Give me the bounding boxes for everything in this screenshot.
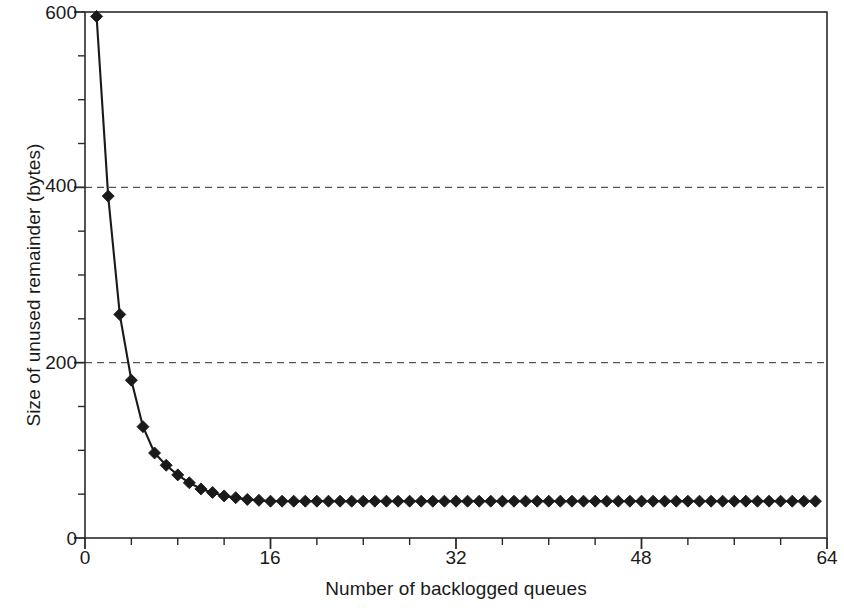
plot-area	[0, 0, 844, 608]
x-tick-label-16: 16	[240, 548, 300, 567]
x-tick-label-32: 32	[426, 548, 486, 567]
gridlines	[85, 187, 827, 362]
y-tick-label-200: 200	[7, 353, 77, 372]
x-tick-label-0: 0	[55, 548, 115, 567]
x-tick-label-48: 48	[611, 548, 671, 567]
axis-ticks	[74, 12, 827, 549]
x-tick-label-64: 64	[797, 548, 844, 567]
y-axis-title: Size of unused remainder (bytes)	[23, 105, 45, 465]
y-tick-label-400: 400	[7, 176, 77, 195]
x-axis-title: Number of backlogged queues	[85, 578, 827, 600]
chart-figure: Size of unused remainder (bytes) Number …	[0, 0, 844, 608]
y-tick-label-600: 600	[7, 3, 77, 22]
data-series	[91, 10, 822, 507]
plot-frame	[85, 12, 827, 538]
y-tick-label-0: 0	[7, 529, 77, 548]
